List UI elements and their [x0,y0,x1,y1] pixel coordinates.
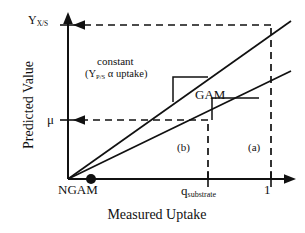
y-tick-label-yxs-main: Y [28,13,37,27]
annotation-constant-formula-sub: P/S [96,73,105,80]
plot-canvas [0,0,305,233]
annotation-constant-formula-pre: (Y [85,68,96,79]
series-line-gam [68,71,291,179]
annotation-constant-formula: (YP/S α uptake) [85,69,147,80]
annotation-region-b: (b) [177,142,190,153]
x-axis-arrowhead [284,174,296,184]
annotation-constant: constant [97,56,134,67]
series-group [68,21,291,179]
guide-arrowhead-yxs [73,20,85,29]
annotation-gam: GAM [195,88,225,101]
annotation-constant-formula-post: α uptake) [105,68,147,79]
x-axis-title: Measured Uptake [52,208,262,222]
x-tick-label-one: 1 [264,183,271,196]
y-tick-label-yxs-sub: X/S [37,19,49,28]
y-axis-arrowhead [63,12,73,24]
figure-container: Predicted Value Measured Uptake YX/S μ N… [0,0,305,233]
x-tick-label-qsubstrate-sub: substrate [188,190,217,199]
annotation-region-a: (a) [248,142,260,153]
x-tick-label-ngam: NGAM [58,183,98,196]
series-line-constant [68,21,291,179]
guide-arrowhead-mu [73,115,85,124]
y-tick-label-mu: μ [47,113,54,126]
x-tick-label-qsubstrate: qsubstrate [181,184,216,199]
y-axis-title: Predicted Value [22,30,36,180]
y-tick-label-yxs: YX/S [28,14,48,27]
